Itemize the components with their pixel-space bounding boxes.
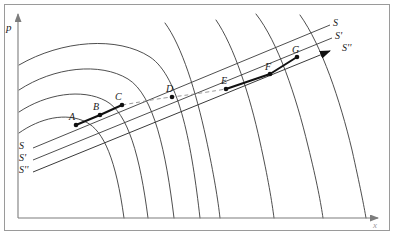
demand-curve [216, 20, 274, 218]
supply-label-S2-right: S'' [342, 43, 351, 53]
supply-label-S1-left: S' [19, 153, 26, 163]
demand-curve [19, 69, 174, 218]
supply-line-group [33, 25, 332, 172]
supply-label-S2-left: S'' [19, 165, 28, 175]
supply-line-S [33, 25, 330, 148]
point-label-D: D [166, 84, 173, 94]
point-label-F: F [265, 62, 271, 72]
equilibrium-point-B [98, 113, 103, 118]
equilibrium-point-F [268, 72, 273, 77]
point-label-B: B [93, 102, 99, 112]
demand-curve [19, 43, 200, 218]
equilibrium-point-D [170, 95, 175, 100]
equilibrium-point-E [224, 87, 229, 92]
supply-label-S1-right: S' [335, 31, 342, 41]
figure-canvas: p x ABCDEFGSS'S''SS'S'' [0, 0, 394, 235]
point-label-E: E [221, 76, 227, 86]
demand-curve [19, 94, 148, 218]
demand-curve [300, 15, 366, 218]
point-label-G: G [292, 45, 299, 55]
x-axis-label: x [373, 221, 377, 230]
point-label-A: A [69, 112, 75, 122]
equilibrium-point-C [120, 103, 125, 108]
equilibrium-point-G [295, 55, 300, 60]
equilibrium-point-A [74, 123, 79, 128]
demand-curve [165, 23, 220, 218]
supply-label-S-right: S [333, 18, 338, 28]
supply-label-S-left: S [19, 141, 24, 151]
point-label-C: C [115, 92, 122, 102]
bold-segment-FG [270, 57, 297, 74]
y-axis-label: p [6, 22, 12, 33]
demand-curve [256, 14, 323, 218]
bold-segment-EF [226, 74, 270, 89]
